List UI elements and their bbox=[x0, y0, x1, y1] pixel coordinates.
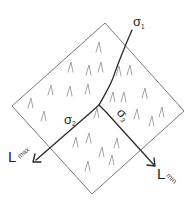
lambda-mark bbox=[149, 116, 154, 126]
sigma3-label: σ3 bbox=[114, 105, 133, 124]
lambda-mark bbox=[121, 92, 126, 102]
lambda-mark bbox=[98, 62, 103, 72]
lambda-mark bbox=[73, 137, 78, 147]
lambda-mark bbox=[41, 111, 46, 121]
lambda-mark bbox=[68, 62, 73, 72]
lambda-mark bbox=[86, 133, 91, 143]
svg-text:L: L bbox=[8, 148, 16, 165]
sigma1-label: σ1 bbox=[133, 14, 145, 30]
lambda-mark bbox=[85, 161, 90, 171]
lambda-mark bbox=[114, 138, 119, 148]
lambda-mark bbox=[110, 92, 115, 102]
lambda-mark bbox=[96, 42, 101, 52]
lambda-mark bbox=[86, 65, 91, 75]
lmax-label: L max bbox=[8, 145, 31, 165]
lmax-arrowhead-icon bbox=[33, 154, 41, 162]
svg-text:max: max bbox=[16, 145, 31, 159]
lambda-mark bbox=[127, 65, 132, 75]
sigma2-label: σ2 bbox=[64, 112, 76, 127]
lambda-mark bbox=[142, 88, 147, 98]
fabric-marks bbox=[28, 42, 164, 171]
lambda-mark bbox=[134, 109, 139, 119]
svg-text:min: min bbox=[165, 172, 178, 185]
lmin-label: L min bbox=[157, 165, 178, 185]
lambda-mark bbox=[48, 85, 53, 95]
lambda-mark bbox=[99, 147, 104, 157]
lambda-mark bbox=[28, 98, 33, 108]
svg-text:L: L bbox=[157, 165, 165, 182]
lambda-mark bbox=[85, 84, 90, 94]
lambda-mark bbox=[109, 155, 114, 165]
lambda-mark bbox=[159, 107, 164, 117]
stress-diagram: σ1 σ2 σ3 L max L min bbox=[0, 0, 193, 201]
lambda-mark bbox=[67, 86, 72, 96]
sigma1-trace bbox=[99, 30, 132, 105]
